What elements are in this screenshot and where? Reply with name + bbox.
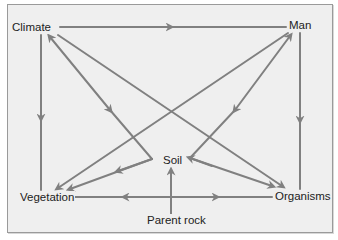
node-soil: Soil	[162, 154, 183, 167]
node-organisms: Organisms	[274, 190, 332, 203]
diagram-arrows	[0, 0, 338, 240]
node-man: Man	[288, 19, 312, 32]
node-parent-rock: Parent rock	[146, 214, 207, 227]
node-climate: Climate	[11, 21, 52, 34]
edge-climate-soil	[50, 37, 152, 189]
edge-man-soil	[190, 36, 290, 186]
node-vegetation: Vegetation	[19, 191, 75, 204]
